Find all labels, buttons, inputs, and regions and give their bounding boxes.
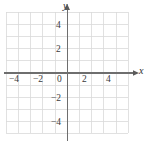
x-axis — [4, 70, 139, 76]
x-tick-label-4: 4 — [106, 75, 111, 85]
x-tick-label-2: 2 — [82, 75, 87, 85]
x-tick-label-neg4: −4 — [9, 75, 19, 85]
origin-label: 0 — [57, 75, 62, 85]
x-tick-label-neg2: −2 — [33, 75, 43, 85]
coordinate-plane-figure: −4 −2 0 2 4 4 2 −2 −4 y x — [0, 0, 147, 143]
y-tick-label-2: 2 — [56, 45, 61, 55]
coordinate-plane-canvas — [0, 0, 147, 143]
y-tick-label-neg4: −4 — [51, 118, 61, 128]
x-axis-label: x — [139, 66, 143, 76]
y-tick-label-4: 4 — [56, 21, 61, 31]
y-tick-label-neg2: −2 — [51, 94, 61, 104]
y-axis-label: y — [63, 1, 67, 11]
